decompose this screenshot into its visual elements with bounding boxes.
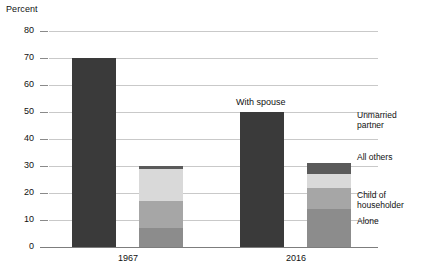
legend-label-child-of-householder: Child of householder bbox=[357, 190, 404, 210]
y-tick-dash-70 bbox=[40, 58, 48, 59]
y-tick-label-30: 30 bbox=[8, 160, 34, 170]
y-axis-title: Percent bbox=[6, 4, 38, 14]
segment-1967-child-of-householder bbox=[139, 201, 183, 228]
axis-baseline bbox=[40, 247, 378, 248]
y-tick-dash-60 bbox=[40, 85, 48, 86]
bar-1967-stack bbox=[139, 166, 183, 247]
y-tick-label-0: 0 bbox=[8, 241, 34, 251]
gridline-80 bbox=[49, 31, 378, 32]
segment-2016-child-of-householder bbox=[307, 187, 351, 209]
legend-label-alone: Alone bbox=[357, 216, 379, 226]
y-tick-label-80: 80 bbox=[8, 25, 34, 35]
y-tick-label-40: 40 bbox=[8, 133, 34, 143]
segment-2016-unmarried-partner bbox=[307, 163, 351, 174]
y-tick-dash-80 bbox=[40, 31, 48, 32]
y-tick-label-20: 20 bbox=[8, 187, 34, 197]
segment-2016-all-others bbox=[307, 174, 351, 188]
y-tick-label-10: 10 bbox=[8, 214, 34, 224]
x-label-1967: 1967 bbox=[98, 253, 158, 263]
bar-2016-with-spouse bbox=[240, 112, 284, 247]
bar-2016-stack bbox=[307, 163, 351, 247]
y-tick-label-60: 60 bbox=[8, 79, 34, 89]
y-tick-label-50: 50 bbox=[8, 106, 34, 116]
legend-label-unmarried-partner: Unmarried partner bbox=[357, 110, 397, 130]
y-tick-dash-20 bbox=[40, 193, 48, 194]
y-tick-label-70: 70 bbox=[8, 52, 34, 62]
living-arrangements-chart: Percent 01020304050607080 With spouse 19… bbox=[0, 0, 421, 276]
legend-label-all-others: All others bbox=[357, 152, 392, 162]
y-tick-dash-30 bbox=[40, 166, 48, 167]
bar-1967-with-spouse bbox=[72, 58, 116, 247]
with-spouse-annotation: With spouse bbox=[236, 97, 286, 107]
segment-1967-all-others bbox=[139, 169, 183, 201]
segment-1967-alone bbox=[139, 228, 183, 247]
y-tick-dash-10 bbox=[40, 220, 48, 221]
segment-2016-alone bbox=[307, 209, 351, 247]
x-label-2016: 2016 bbox=[266, 253, 326, 263]
y-tick-dash-50 bbox=[40, 112, 48, 113]
y-tick-dash-40 bbox=[40, 139, 48, 140]
segment-1967-unmarried-partner bbox=[139, 166, 183, 169]
